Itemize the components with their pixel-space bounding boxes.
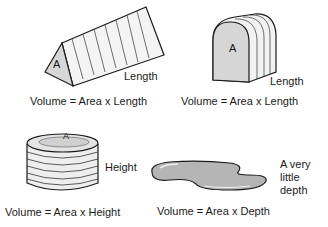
- puddle-formula: Volume = Area x Depth: [157, 205, 270, 218]
- cylinder-formula: Volume = Area x Height: [5, 206, 120, 219]
- puddle-depth-label: A very little depth: [280, 158, 311, 197]
- cylinder-shape: [27, 134, 98, 190]
- triangular-prism-length-label: Length: [124, 70, 158, 83]
- arched-prism-length-label: Length: [270, 75, 304, 88]
- arched-prism-area-label: A: [229, 42, 236, 54]
- triangular-prism-area-label: A: [53, 58, 60, 70]
- cylinder-height-label: Height: [105, 161, 137, 174]
- triangular-prism-formula: Volume = Area x Length: [30, 95, 147, 108]
- puddle-shape: [152, 161, 266, 190]
- diagram-canvas: [0, 0, 328, 227]
- arched-prism-shape: [213, 14, 276, 82]
- cylinder-area-label: A: [63, 131, 69, 141]
- arched-prism-formula: Volume = Area x Length: [181, 95, 298, 108]
